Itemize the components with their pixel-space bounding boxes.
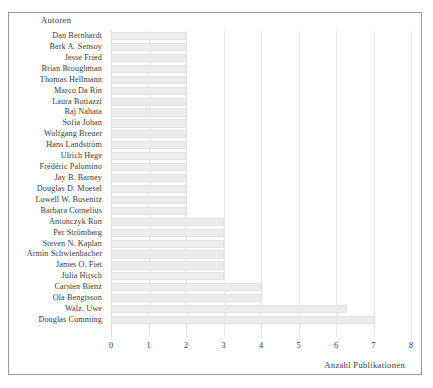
bar-row (111, 184, 411, 195)
y-axis-tick-label: Dan Bernhardt (9, 31, 107, 42)
bar-row (111, 239, 411, 250)
bar-row (111, 293, 411, 304)
bar-row (111, 97, 411, 108)
y-axis-tick-label: Raj Nahata (9, 107, 107, 118)
bar-row (111, 195, 411, 206)
y-axis-tick-label: Julia Hirsch (9, 271, 107, 282)
bar (111, 229, 224, 237)
y-axis-tick-label: Douglas Cumming (9, 315, 107, 326)
bar (111, 141, 186, 149)
x-axis-title: Anzahl Publikationen (324, 360, 405, 370)
x-axis-tick-label: 6 (334, 341, 338, 350)
bar-row (111, 53, 411, 64)
bar (111, 163, 186, 171)
x-axis-tick-label: 4 (259, 341, 263, 350)
x-axis-tick-label: 5 (296, 341, 300, 350)
y-axis-tick-label: Steven N. Kaplan (9, 239, 107, 250)
bar (111, 272, 224, 280)
y-axis-tick-label: Frédéric Palomino (9, 162, 107, 173)
x-axis-tick-label: 3 (221, 341, 225, 350)
bar-row (111, 86, 411, 97)
bar (111, 87, 186, 95)
plot-area (111, 31, 411, 337)
y-axis-tick-label: Lowell W. Busenitz (9, 195, 107, 206)
bar (111, 218, 224, 226)
x-axis-tick-label: 8 (409, 341, 413, 350)
bar-row (111, 31, 411, 42)
bar (111, 76, 186, 84)
y-axis-tick-label: Ola Bengtsson (9, 293, 107, 304)
y-axis-tick-label: Hans Landström (9, 140, 107, 151)
bar-row (111, 304, 411, 315)
bar-row (111, 75, 411, 86)
y-axis-tick-label: Wolfgang Breuer (9, 129, 107, 140)
y-axis-tick-labels: Dan BernhardtBerk A. SensoyJesse FriedBr… (9, 31, 107, 337)
bar-row (111, 129, 411, 140)
bar-row (111, 107, 411, 118)
bar (111, 130, 186, 138)
bar-row (111, 42, 411, 53)
bar-row (111, 206, 411, 217)
y-axis-tick-label: Ulrich Hege (9, 151, 107, 162)
bar (111, 65, 186, 73)
bar-row (111, 173, 411, 184)
y-axis-tick-label: Carsten Bienz (9, 282, 107, 293)
y-axis-tick-label: Armin Schwienbacher (9, 249, 107, 260)
bar (111, 119, 186, 127)
y-axis-tick-label: Per Strömberg (9, 228, 107, 239)
bar (111, 32, 186, 40)
bar (111, 261, 224, 269)
bar (111, 98, 186, 106)
x-axis-tick-label: 7 (371, 341, 375, 350)
y-axis-tick-label: Laura Bottazzi (9, 97, 107, 108)
x-axis-tick-label: 0 (109, 341, 113, 350)
gridline-8 (411, 31, 412, 337)
y-axis-tick-label: Jay B. Barney (9, 173, 107, 184)
y-axis-tick-label: Barbara Cornelius (9, 206, 107, 217)
bar-row (111, 151, 411, 162)
bar (111, 283, 261, 291)
bar-row (111, 315, 411, 326)
bar (111, 316, 374, 324)
y-axis-tick-label: Marco Da Rin (9, 86, 107, 97)
y-axis-tick-label: Thomas Hellmann (9, 75, 107, 86)
y-axis-title: Autoren (41, 15, 71, 25)
bar (111, 240, 224, 248)
bar (111, 108, 186, 116)
bar (111, 196, 186, 204)
x-axis-tick-label: 2 (184, 341, 188, 350)
bar (111, 54, 186, 62)
bar (111, 207, 186, 215)
y-axis-tick-label: Berk A. Sensoy (9, 42, 107, 53)
bar-series (111, 31, 411, 337)
y-axis-tick-label: Antonczyk Ron (9, 217, 107, 228)
y-axis-tick-label: James O. Fiet (9, 260, 107, 271)
bar (111, 43, 186, 51)
bar-row (111, 118, 411, 129)
y-axis-tick-label: Walz, Uwe (9, 304, 107, 315)
bar (111, 250, 224, 258)
bar-row (111, 140, 411, 151)
bar-row (111, 260, 411, 271)
bar (111, 152, 186, 160)
x-axis-tick-label: 1 (146, 341, 150, 350)
x-axis-tick-labels: 012345678 (111, 341, 411, 355)
bar (111, 174, 186, 182)
y-axis-tick-label: Douglas D. Moesel (9, 184, 107, 195)
bar-row (111, 249, 411, 260)
bar-row (111, 217, 411, 228)
bar-row (111, 228, 411, 239)
bar (111, 185, 186, 193)
y-axis-tick-label: Brian Broughman (9, 64, 107, 75)
bar-row (111, 162, 411, 173)
bar-row (111, 64, 411, 75)
bar-row (111, 271, 411, 282)
bar (111, 294, 261, 302)
bar-row (111, 282, 411, 293)
chart-frame: Autoren Dan BernhardtBerk A. SensoyJesse… (8, 12, 422, 375)
y-axis-tick-label: Jesse Fried (9, 53, 107, 64)
bar (111, 305, 347, 313)
y-axis-tick-label: Sofia Johan (9, 118, 107, 129)
